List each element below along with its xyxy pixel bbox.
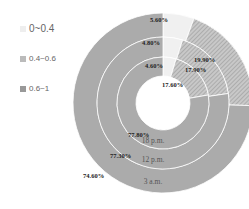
ring-label: 3 a.m. (144, 177, 163, 186)
data-label: 5.60% (150, 16, 168, 23)
ring-label: 12 p.m. (142, 155, 165, 164)
data-label: 4.60% (145, 62, 163, 69)
data-label: 17.60% (162, 81, 183, 88)
data-label: 19.90% (194, 56, 215, 63)
donut-chart: 5.60%19.90%74.60%3 a.m.4.80%17.90%77.30%… (0, 0, 249, 209)
data-label: 74.60% (83, 172, 104, 179)
data-label: 17.90% (185, 66, 206, 73)
data-label: 77.30% (110, 152, 131, 159)
ring-label: 18 p.m. (142, 136, 165, 145)
data-label: 4.80% (142, 39, 160, 46)
